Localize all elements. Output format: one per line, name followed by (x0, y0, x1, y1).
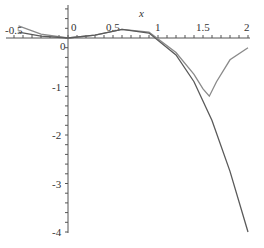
tick-label: -3 (52, 178, 62, 190)
chart: -0.5 0 0.5 1 1.5 2 0 -1 -2 -3 -4 x (0, 0, 264, 248)
tick-label: 0 (71, 21, 77, 33)
tick-label: -0.5 (5, 24, 23, 36)
tick-label: 2 (244, 21, 250, 33)
tick-label: 0 (60, 40, 66, 52)
tick-label: -1 (52, 81, 61, 93)
tick-label: -4 (52, 226, 62, 238)
x-axis-label: x (138, 7, 144, 19)
tick-label: 1 (155, 21, 161, 33)
tick-label: -2 (52, 129, 61, 141)
tick-label: 1.5 (196, 21, 210, 33)
